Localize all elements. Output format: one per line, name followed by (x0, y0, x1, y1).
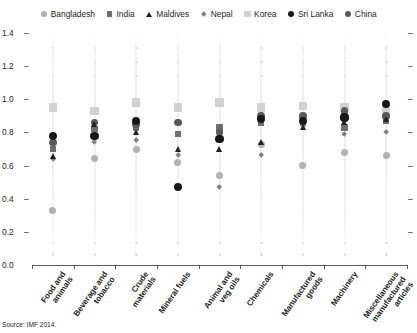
data-point[interactable] (258, 152, 264, 158)
y-tick-label: 1.2 (2, 61, 5, 71)
data-point[interactable] (216, 184, 222, 190)
data-point[interactable] (174, 183, 182, 191)
data-point[interactable] (50, 146, 57, 153)
data-point[interactable] (383, 152, 390, 159)
diamond-marker (133, 138, 139, 144)
data-point[interactable] (216, 146, 224, 152)
data-point[interactable] (175, 152, 181, 158)
circle-marker (174, 159, 181, 166)
data-point[interactable] (133, 138, 139, 144)
faint-point (344, 61, 346, 63)
data-point[interactable] (215, 135, 223, 143)
faint-point (302, 61, 304, 63)
plot-area (32, 33, 407, 265)
square-marker (174, 103, 182, 111)
legend-item-korea[interactable]: Korea (244, 10, 277, 19)
data-point[interactable] (174, 146, 182, 152)
x-axis-label-text: Machinery (329, 270, 359, 308)
legend-item-nepal[interactable]: Nepal (200, 10, 232, 19)
legend-label: Nepal (211, 10, 233, 19)
data-point[interactable] (49, 153, 57, 159)
data-point[interactable] (299, 162, 306, 169)
data-point[interactable] (382, 100, 390, 108)
data-point[interactable] (174, 159, 181, 166)
legend-item-sri-lanka[interactable]: Sri Lanka (287, 10, 333, 19)
square-marker (90, 107, 98, 115)
y-tick-dash: – (24, 28, 29, 38)
x-axis-label-text: Animal and veg oils (202, 270, 242, 316)
data-point[interactable] (341, 149, 348, 156)
data-point[interactable] (257, 139, 265, 145)
diamond-marker (258, 152, 264, 158)
data-point[interactable] (215, 98, 223, 106)
square-marker (299, 102, 307, 110)
diamond-marker (383, 129, 389, 135)
circle-marker (383, 152, 390, 159)
circle-marker (215, 135, 223, 143)
faint-point (385, 75, 387, 77)
y-tick-dash: – (24, 227, 29, 237)
faint-point (177, 253, 179, 255)
triangle-marker (146, 12, 152, 17)
data-point[interactable] (341, 131, 347, 137)
data-point[interactable] (257, 115, 265, 123)
data-point[interactable] (340, 113, 348, 121)
legend-label: Maldives (156, 10, 189, 19)
data-point[interactable] (91, 155, 98, 162)
data-point[interactable] (132, 129, 140, 135)
legend-item-china[interactable]: China (344, 10, 376, 19)
legend-label: Sri Lanka (298, 10, 333, 19)
data-point[interactable] (299, 124, 307, 130)
diamond-marker (201, 11, 206, 16)
x-axis-label-text: Miscellaneous manufactured articles (362, 270, 416, 331)
data-point[interactable] (174, 119, 182, 127)
data-point[interactable] (257, 103, 265, 111)
column-strip (260, 33, 262, 265)
circle-marker (49, 207, 56, 214)
faint-point (219, 242, 221, 244)
x-axis-label-text: Food and animals (39, 270, 75, 310)
data-point[interactable] (91, 139, 97, 145)
data-point[interactable] (299, 102, 307, 110)
circle-marker (90, 132, 98, 140)
faint-point (260, 75, 262, 77)
legend-item-bangladesh[interactable]: Bangladesh (40, 10, 95, 19)
y-tick-label: 0.8 (2, 127, 5, 137)
data-point[interactable] (90, 132, 98, 140)
circle-marker (41, 11, 47, 17)
data-point[interactable] (175, 131, 182, 138)
data-point[interactable] (174, 103, 182, 111)
x-axis-label-text: Crude materials (123, 270, 158, 309)
data-point[interactable] (133, 146, 140, 153)
data-point[interactable] (382, 116, 390, 122)
legend-item-maldives[interactable]: Maldives (146, 10, 190, 19)
data-point[interactable] (49, 207, 56, 214)
y-tick-label: 0.4 (2, 194, 5, 204)
y-tick-label: 0.6 (2, 161, 5, 171)
data-point[interactable] (383, 129, 389, 135)
data-point[interactable] (132, 98, 140, 106)
y-tick-label: 0.2 (2, 227, 5, 237)
data-point[interactable] (216, 172, 223, 179)
legend-item-india[interactable]: India (106, 10, 135, 19)
y-tick-dash-right: – (408, 28, 413, 38)
square-icon (106, 10, 113, 19)
chart-container: BangladeshIndiaMaldivesNepalKoreaSri Lan… (0, 0, 417, 333)
column-strip (302, 33, 304, 265)
faint-point (177, 61, 179, 63)
data-point[interactable] (91, 121, 99, 127)
data-point[interactable] (132, 117, 140, 125)
diamond-marker (91, 139, 97, 145)
faint-point (260, 47, 262, 49)
square-marker (132, 98, 140, 106)
square-marker (107, 11, 112, 16)
data-point[interactable] (299, 117, 307, 125)
circle-marker (299, 117, 307, 125)
data-point[interactable] (90, 107, 98, 115)
triangle-marker (50, 153, 56, 159)
data-point[interactable] (49, 132, 57, 140)
y-tick-dash: – (24, 61, 29, 71)
data-point[interactable] (49, 103, 57, 111)
y-tick-dash: – (24, 127, 29, 137)
triangle-marker (216, 146, 222, 152)
